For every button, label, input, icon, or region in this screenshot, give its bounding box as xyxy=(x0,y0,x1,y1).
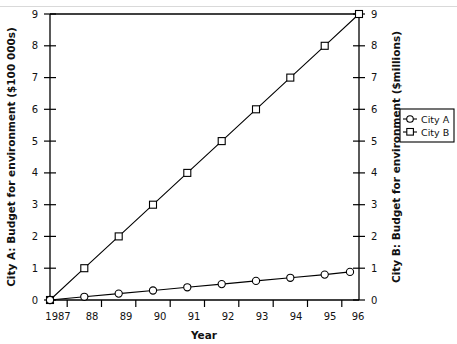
x-axis-tick-labels: 1987 88 89 90 91 92 93 94 95 96 xyxy=(45,311,364,322)
right-tick-label: 5 xyxy=(371,136,377,147)
right-tick-label: 6 xyxy=(371,104,377,115)
left-tick-label: 4 xyxy=(32,167,38,178)
series-city-a-marker xyxy=(218,281,225,288)
series-city-a-line xyxy=(50,272,350,300)
right-tick-label: 2 xyxy=(371,231,377,242)
left-tick-label: 7 xyxy=(32,72,38,83)
right-axis-tick-labels: 0 1 2 3 4 5 6 7 8 9 xyxy=(371,9,377,306)
x-tick-label: 1987 xyxy=(45,311,70,322)
left-tick-label: 0 xyxy=(32,295,38,306)
chart-legend: City A City B xyxy=(400,109,454,142)
x-tick-label: 94 xyxy=(290,311,303,322)
x-tick-label: 92 xyxy=(222,311,235,322)
right-tick-label: 0 xyxy=(371,295,377,306)
series-city-b-marker xyxy=(321,42,328,49)
x-axis-ticks xyxy=(67,300,342,307)
left-tick-label: 9 xyxy=(32,9,38,20)
right-axis-title: City B: Budget for environment ($million… xyxy=(390,31,402,283)
left-tick-label: 1 xyxy=(32,263,38,274)
left-tick-label: 2 xyxy=(32,231,38,242)
x-axis-title: Year xyxy=(190,329,218,341)
x-tick-label: 91 xyxy=(188,311,201,322)
x-tick-label: 90 xyxy=(154,311,167,322)
right-tick-label: 9 xyxy=(371,9,377,20)
right-tick-label: 3 xyxy=(371,199,377,210)
left-tick-label: 5 xyxy=(32,136,38,147)
series-city-b-line xyxy=(50,14,359,300)
left-axis-title: City A: Budget for environment ($100 000… xyxy=(5,27,17,287)
x-tick-label: 89 xyxy=(120,311,133,322)
series-city-b-marker xyxy=(184,169,191,176)
x-tick-label: 96 xyxy=(352,311,365,322)
left-tick-label: 3 xyxy=(32,199,38,210)
x-tick-label: 95 xyxy=(324,311,337,322)
series-city-b-marker xyxy=(253,106,260,113)
chart-svg: 0 1 2 3 4 5 6 7 8 9 0 1 2 xyxy=(0,0,457,344)
left-tick-label: 8 xyxy=(32,40,38,51)
series-city-a-marker xyxy=(252,277,259,284)
series-city-a-marker xyxy=(115,290,122,297)
legend-square-icon xyxy=(407,129,414,136)
x-tick-label: 88 xyxy=(86,311,99,322)
x-tick-label: 93 xyxy=(256,311,269,322)
series-city-b-marker xyxy=(287,74,294,81)
right-tick-label: 8 xyxy=(371,40,377,51)
left-axis-tick-labels: 0 1 2 3 4 5 6 7 8 9 xyxy=(32,9,38,306)
right-tick-label: 1 xyxy=(371,263,377,274)
series-city-a xyxy=(46,268,353,303)
series-city-b xyxy=(47,11,363,304)
series-city-b-marker xyxy=(356,11,363,18)
legend-label-city-b: City B xyxy=(421,127,449,138)
series-city-b-marker xyxy=(81,265,88,272)
series-city-b-marker xyxy=(115,233,122,240)
series-city-a-marker xyxy=(287,274,294,281)
series-city-a-marker xyxy=(46,296,53,303)
series-city-b-marker xyxy=(150,201,157,208)
left-tick-label: 6 xyxy=(32,104,38,115)
legend-label-city-a: City A xyxy=(421,114,450,125)
series-city-a-marker xyxy=(321,271,328,278)
right-tick-label: 4 xyxy=(371,167,377,178)
line-chart: 0 1 2 3 4 5 6 7 8 9 0 1 2 xyxy=(0,0,457,344)
series-city-a-marker xyxy=(346,268,353,275)
series-city-a-marker xyxy=(81,293,88,300)
series-city-a-marker xyxy=(149,287,156,294)
series-city-b-marker xyxy=(218,138,225,145)
legend-circle-icon xyxy=(407,116,414,123)
right-tick-label: 7 xyxy=(371,72,377,83)
series-city-a-marker xyxy=(184,284,191,291)
